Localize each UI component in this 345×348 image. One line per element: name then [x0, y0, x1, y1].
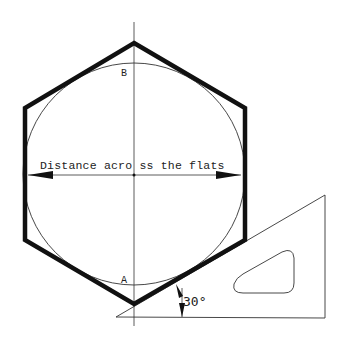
- point-label-a: A: [121, 275, 127, 286]
- hexagon-construction-diagram: Distance acro ss the flats B A 30°: [0, 0, 345, 348]
- hexagon-outline: [25, 43, 245, 304]
- center-point: [133, 174, 136, 177]
- dimension-arrow-right-icon: [216, 171, 241, 179]
- set-square-cutout: [234, 250, 294, 293]
- point-label-b: B: [121, 68, 127, 79]
- dimension-label: Distance acro ss the flats: [40, 159, 225, 172]
- dimension-arrow-left-icon: [28, 171, 53, 179]
- angle-label: 30°: [183, 294, 206, 309]
